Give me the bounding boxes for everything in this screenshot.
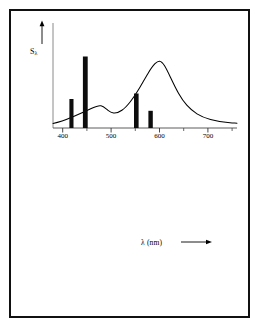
emission-bar-435	[83, 57, 88, 129]
plot-area: Sλ 400 500 600 700 λ (nm)	[11, 11, 252, 320]
x-axis-label: λ (nm)	[141, 239, 162, 247]
x-axis-arrow-icon	[181, 240, 212, 245]
spectrum-plot-svg	[11, 11, 252, 320]
emission-line-bars	[69, 57, 152, 129]
y-axis-label: Sλ	[30, 48, 37, 56]
x-tick-label-400: 400	[52, 133, 74, 140]
continuum-curve	[53, 61, 237, 123]
y-axis-arrow-icon	[40, 21, 45, 45]
emission-bar-575	[148, 111, 152, 128]
figure-border: Sλ 400 500 600 700 λ (nm)	[9, 9, 250, 318]
y-axis-label-subscript: λ	[34, 50, 37, 56]
emission-bar-405	[69, 99, 73, 128]
emission-bar-545	[134, 94, 139, 129]
x-tick-label-500: 500	[100, 133, 122, 140]
x-tick-label-700: 700	[197, 133, 219, 140]
x-tick-label-600: 600	[149, 133, 171, 140]
